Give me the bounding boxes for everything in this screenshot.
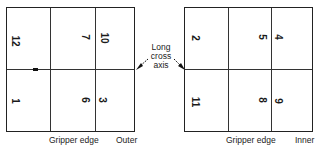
page-number: 2 xyxy=(190,35,200,41)
page-number: 9 xyxy=(273,98,283,104)
inner-sheet xyxy=(184,7,313,132)
page-number: 5 xyxy=(257,34,267,40)
long-cross-axis-line xyxy=(185,69,312,70)
inner-label: Inner xyxy=(295,135,314,145)
page-number: 8 xyxy=(257,97,267,103)
gripper-edge-label: Gripper edge xyxy=(226,135,276,145)
page-number: 11 xyxy=(190,97,200,108)
page-number: 4 xyxy=(273,34,283,40)
